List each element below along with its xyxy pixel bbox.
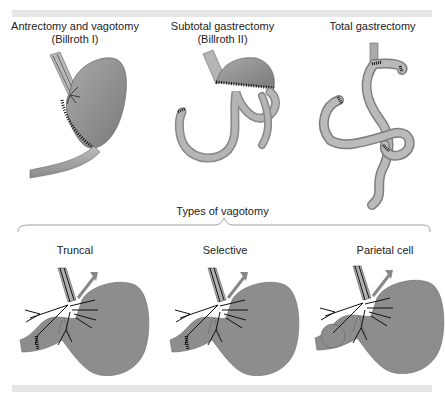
illustration-canvas bbox=[0, 0, 445, 401]
vagotomy-group-brace bbox=[18, 218, 430, 232]
truncal-vagotomy-illustration bbox=[20, 268, 149, 376]
total-gastrectomy-illustration bbox=[324, 43, 410, 205]
billroth-1-illustration bbox=[30, 52, 126, 178]
parietal-cell-vagotomy-illustration bbox=[315, 266, 444, 374]
billroth-2-illustration bbox=[178, 50, 276, 158]
selective-vagotomy-illustration bbox=[170, 268, 299, 376]
